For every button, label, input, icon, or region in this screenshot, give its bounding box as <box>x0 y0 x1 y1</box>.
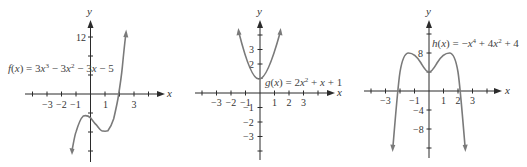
x-tick-label: 3 <box>301 97 306 108</box>
figure-canvas: x y −3 −2 −1 1 3 12 <box>0 0 527 167</box>
x-tick-label: −3 <box>42 99 53 110</box>
y-tick-label: −4 <box>413 105 424 116</box>
y-tick-label: 12 <box>76 32 86 43</box>
graph-g: x y −3 −2 −1 1 2 3 3 2 <box>195 5 342 160</box>
y-tick-label: 8 <box>418 48 423 59</box>
function-label-g: g(x) = 2x2 + x + 1 <box>265 76 342 89</box>
graph-f: x y −3 −2 −1 1 3 12 <box>8 5 172 162</box>
x-tick-label: 3 <box>470 95 475 106</box>
curve-arrow-icon <box>70 148 75 155</box>
y-tick-label: −2 <box>243 117 254 128</box>
y-tick-label: 3 <box>249 44 254 55</box>
x-tick-label: −3 <box>211 97 222 108</box>
x-axis-arrow-icon <box>327 90 335 96</box>
y-axis-label: y <box>256 5 262 17</box>
x-tick-label: 2 <box>456 95 461 106</box>
x-axis-label: x <box>504 84 510 96</box>
x-tick-label: 1 <box>103 99 108 110</box>
function-label-h: h(x) = −x4 + 4x2 + 4 <box>432 37 519 50</box>
curve-arrow-icon <box>237 28 242 36</box>
curve-arrow-icon <box>278 28 283 36</box>
y-axis-arrow-icon <box>88 20 94 28</box>
x-tick-label: −1 <box>70 99 81 110</box>
x-axis-label: x <box>166 87 172 99</box>
function-label-f: f(x) = 3x3 − 3x2 − 3x − 5 <box>8 62 114 75</box>
curve-arrow-icon <box>123 30 128 38</box>
x-tick-label: 2 <box>287 97 292 108</box>
curve-f <box>72 36 126 151</box>
x-axis-arrow-icon <box>494 88 502 94</box>
y-tick-label: −8 <box>413 124 424 135</box>
x-axis-arrow-icon <box>157 91 165 97</box>
y-axis-arrow-icon <box>257 20 263 28</box>
graph-h: x y −3 −1 1 2 3 8 −4 −8 <box>364 5 519 158</box>
y-tick-label: −1 <box>243 102 254 113</box>
x-tick-label: −2 <box>56 99 67 110</box>
y-tick-label: −3 <box>243 131 254 142</box>
y-axis-label: y <box>86 5 92 17</box>
x-tick-label: 3 <box>132 99 137 110</box>
x-tick-label: 1 <box>272 97 277 108</box>
curve-arrow-icon <box>463 145 468 153</box>
curve-arrow-icon <box>390 145 395 153</box>
y-axis-label: y <box>425 5 431 17</box>
x-tick-label: −2 <box>226 97 237 108</box>
x-tick-label: −3 <box>380 95 391 106</box>
x-tick-label: 1 <box>441 95 446 106</box>
y-axis-arrow-icon <box>426 20 432 28</box>
